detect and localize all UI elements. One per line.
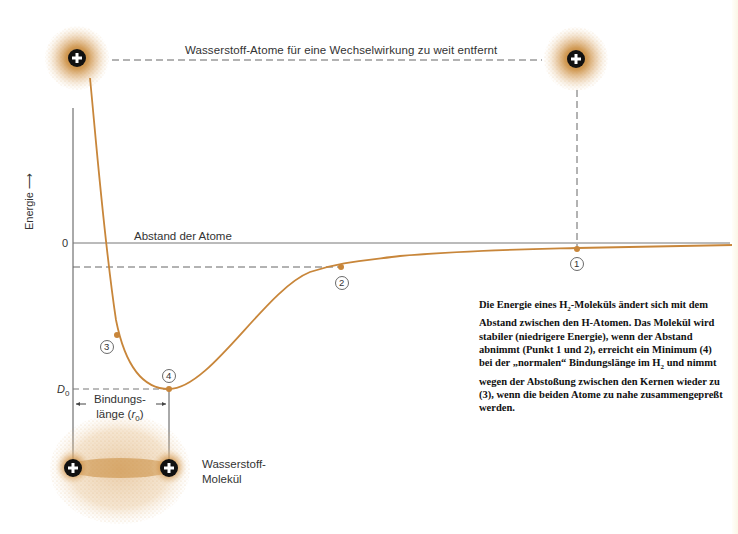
figure-caption: Die Energie eines H2-Moleküls ändert sic… [479,298,724,415]
d0-symbol: D [57,383,65,395]
curve-point-1 [574,246,580,252]
energy-label: Energie [23,192,35,230]
hydrogen-atom-right [544,27,608,91]
bond-length-line2: länge (r0) [94,407,146,426]
bond-length-close: ) [140,408,144,420]
caption-text-1: Die Energie eines H [479,299,567,310]
point-number-2: 2 [339,277,344,288]
diagram-canvas [0,0,738,534]
bond-length-text: länge ( [96,408,131,420]
molecule-label: Wasserstoff- Molekül [202,457,266,487]
page-edge [732,0,738,534]
r0-symbol: r0 [131,408,139,420]
curve-point-2 [338,264,344,270]
molecule-label-line2: Molekül [202,472,266,487]
molecule-label-line1: Wasserstoff- [202,457,266,472]
hydrogen-molecule [50,414,190,524]
bond-length-label: Bindungs- länge (r0) [94,392,146,426]
point-number-1: 1 [574,258,579,269]
bond-length-line1: Bindungs- [94,392,146,407]
point-number-4: 4 [166,370,171,381]
zero-label: 0 [62,237,68,249]
atoms-far-label: Wasserstoff-Atome für eine Wechselwirkun… [185,44,497,56]
curve-point-4 [166,386,172,392]
x-axis-label: Abstand der Atome [134,230,232,242]
arrow-up-icon: ⟶ [23,173,35,189]
curve-point-3 [114,332,120,338]
y-axis-label: Energie ⟶ [23,173,36,230]
hydrogen-atom-left [45,26,109,90]
d0-subscript: 0 [65,389,69,398]
point-number-3: 3 [104,341,109,352]
d0-label: D0 [57,383,69,398]
potential-energy-diagram: 1 2 3 4 Wasserstoff-Atome für eine Wechs… [0,0,738,534]
